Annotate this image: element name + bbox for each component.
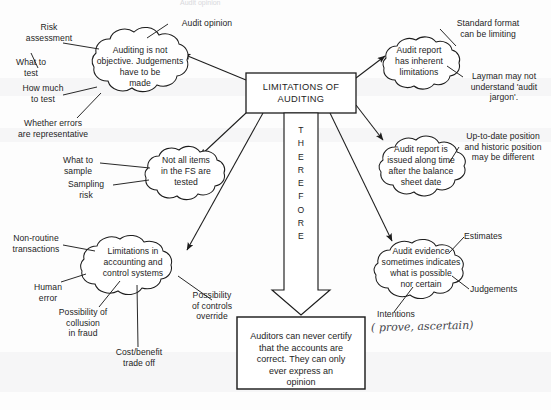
diagram-canvas: Audit opinion LIMITATIONS OF AUDITING T … xyxy=(0,0,551,410)
cloud-label-auditing-not-objective: Auditing is not objective. Judgements ha… xyxy=(83,45,197,89)
label-sampling-risk: Sampling risk xyxy=(58,179,114,200)
label-possibility-controls-override: Possibility of controls override xyxy=(181,290,243,322)
label-judgements: Judgements xyxy=(470,284,536,295)
cropped-header-text: Audit opinion xyxy=(180,0,220,6)
cloud-label-audit-report-inherent-limitations: Audit report has inherent limitations xyxy=(383,45,455,78)
label-audit-opinion: Audit opinion xyxy=(170,18,244,29)
label-whether-errors-representative: Whether errors are representative xyxy=(5,118,101,139)
handwritten-annotation-prove-ascertain: ( prove, ascertain) xyxy=(371,319,474,335)
label-layman-audit-jargon: Layman may not understand 'audit jargon'… xyxy=(459,71,549,103)
conclusion-box-label: Auditors can never certify that the acco… xyxy=(241,331,361,389)
title-box-label: LIMITATIONS OF AUDITING xyxy=(246,81,356,105)
label-what-to-test: What to test xyxy=(0,57,62,78)
label-cost-benefit-trade-off: Cost/benefit trade off xyxy=(107,347,171,368)
label-how-much-to-test: How much to test xyxy=(11,83,75,104)
label-human-error: Human error xyxy=(23,282,73,303)
label-what-to-sample: What to sample xyxy=(51,155,105,176)
label-estimates: Estimates xyxy=(464,231,524,242)
label-risk-assessment: Risk assessment xyxy=(13,22,85,43)
label-up-to-date-historic-position: Up-to-date position and historic positio… xyxy=(456,131,550,163)
cloud-label-limitations-accounting-controls: Limitations in accounting and control sy… xyxy=(79,246,187,279)
cloud-label-audit-evidence-persuasive: Audit evidence sometimes indicates what … xyxy=(371,246,471,290)
therefore-label: T H E R E F O R E xyxy=(284,124,318,244)
label-standard-format-limiting: Standard format can be limiting xyxy=(441,18,535,39)
label-non-routine-transactions: Non-routine transactions xyxy=(4,233,68,254)
cloud-label-audit-report-issued-late: Audit report is issued along time after … xyxy=(379,144,463,188)
label-intentions: Intentions xyxy=(368,309,424,320)
label-possibility-collusion-fraud: Possibility of collusion in fraud xyxy=(50,307,116,339)
cloud-label-not-all-items-tested: Not all items in the FS are tested xyxy=(146,155,226,188)
